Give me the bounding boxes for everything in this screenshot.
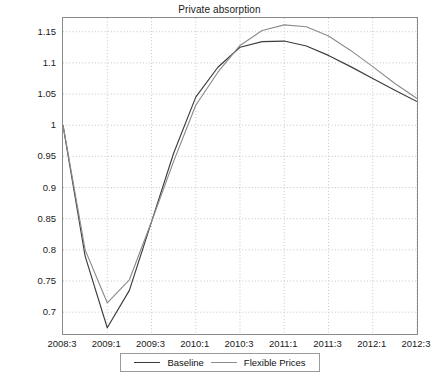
x-axis-tick-label: 2010:3 <box>224 338 253 349</box>
y-axis-tick-label: 0.8 <box>0 243 56 254</box>
y-axis-tick-label: 1.05 <box>0 88 56 99</box>
plot-area <box>62 17 418 335</box>
x-axis-tick-label: 2010:1 <box>180 338 209 349</box>
x-axis-tick-label: 2009:1 <box>92 338 121 349</box>
chart-canvas <box>63 18 417 334</box>
x-axis-tick-label: 2011:1 <box>269 338 297 349</box>
y-axis-tick-label: 1.1 <box>0 56 56 67</box>
y-axis-tick-label: 0.75 <box>0 275 56 286</box>
x-axis-tick-label: 2008:3 <box>47 338 76 349</box>
y-axis-tick-label: 0.85 <box>0 212 56 223</box>
legend-label: Baseline <box>167 357 203 368</box>
chart-legend: BaselineFlexible Prices <box>120 353 320 372</box>
y-axis-tick-label: 1.15 <box>0 25 56 36</box>
x-axis-tick-label: 2012:3 <box>401 338 430 349</box>
chart-title: Private absorption <box>0 4 439 15</box>
plot-inner <box>63 18 417 334</box>
y-axis-tick-label: 0.7 <box>0 306 56 317</box>
x-axis-tick-label: 2012:1 <box>357 338 386 349</box>
x-axis-tick-label: 2011:3 <box>313 338 341 349</box>
x-axis-tick-label: 2009:3 <box>136 338 165 349</box>
y-axis-tick-label: 0.95 <box>0 150 56 161</box>
y-axis-tick-label: 1 <box>0 119 56 130</box>
legend-swatch <box>211 362 237 363</box>
y-axis-tick-label: 0.9 <box>0 181 56 192</box>
chart-figure: Private absorption 0.70.750.80.850.90.95… <box>0 0 439 378</box>
legend-label: Flexible Prices <box>244 357 306 368</box>
legend-swatch <box>134 362 160 363</box>
